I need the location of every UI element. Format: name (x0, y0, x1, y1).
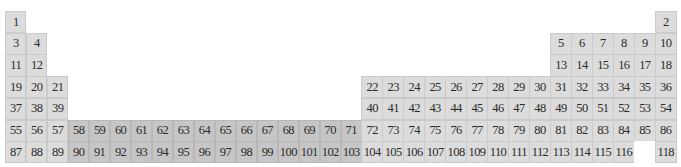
element-cell-52: 52 (613, 98, 634, 120)
element-cell-60: 60 (110, 120, 131, 142)
element-cell-23: 23 (382, 76, 403, 98)
element-cell-108: 108 (445, 141, 466, 163)
element-cell-107: 107 (424, 141, 445, 163)
element-cell-50: 50 (571, 98, 592, 120)
element-cell-103: 103 (341, 141, 362, 163)
element-cell-47: 47 (508, 98, 529, 120)
element-cell-27: 27 (466, 76, 487, 98)
element-cell-74: 74 (403, 120, 424, 142)
element-cell-6: 6 (571, 33, 592, 55)
element-cell-88: 88 (26, 141, 47, 163)
element-cell-92: 92 (110, 141, 131, 163)
element-cell-89: 89 (47, 141, 68, 163)
element-cell-40: 40 (361, 98, 382, 120)
element-cell-30: 30 (529, 76, 550, 98)
element-cell-54: 54 (655, 98, 676, 120)
element-cell-97: 97 (215, 141, 236, 163)
element-cell-66: 66 (236, 120, 257, 142)
element-cell-102: 102 (320, 141, 341, 163)
element-cell-17: 17 (634, 54, 655, 76)
element-cell-24: 24 (403, 76, 424, 98)
element-cell-105: 105 (382, 141, 403, 163)
element-cell-100: 100 (278, 141, 299, 163)
element-cell-45: 45 (466, 98, 487, 120)
element-cell-86: 86 (655, 120, 676, 142)
element-cell-48: 48 (529, 98, 550, 120)
element-cell-96: 96 (194, 141, 215, 163)
element-cell-104: 104 (361, 141, 382, 163)
element-cell-9: 9 (634, 33, 655, 55)
periodic-table: 1234567891011121314151617181920212223242… (5, 11, 676, 163)
element-cell-72: 72 (361, 120, 382, 142)
element-cell-57: 57 (47, 120, 68, 142)
element-cell-85: 85 (634, 120, 655, 142)
element-cell-12: 12 (26, 54, 47, 76)
element-cell-65: 65 (215, 120, 236, 142)
element-cell-118: 118 (655, 141, 676, 163)
element-cell-49: 49 (550, 98, 571, 120)
element-cell-77: 77 (466, 120, 487, 142)
element-cell-62: 62 (152, 120, 173, 142)
element-cell-35: 35 (634, 76, 655, 98)
element-cell-15: 15 (592, 54, 613, 76)
element-cell-19: 19 (5, 76, 26, 98)
empty-cell (634, 141, 655, 163)
element-cell-4: 4 (26, 33, 47, 55)
element-cell-95: 95 (173, 141, 194, 163)
element-cell-69: 69 (299, 120, 320, 142)
element-cell-36: 36 (655, 76, 676, 98)
element-cell-79: 79 (508, 120, 529, 142)
element-cell-56: 56 (26, 120, 47, 142)
element-cell-116: 116 (613, 141, 634, 163)
element-cell-81: 81 (550, 120, 571, 142)
element-cell-113: 113 (550, 141, 571, 163)
element-cell-21: 21 (47, 76, 68, 98)
element-cell-32: 32 (571, 76, 592, 98)
element-cell-94: 94 (152, 141, 173, 163)
element-cell-83: 83 (592, 120, 613, 142)
element-cell-8: 8 (613, 33, 634, 55)
element-cell-20: 20 (26, 76, 47, 98)
element-cell-90: 90 (68, 141, 89, 163)
element-cell-61: 61 (131, 120, 152, 142)
element-cell-84: 84 (613, 120, 634, 142)
element-cell-11: 11 (5, 54, 26, 76)
element-cell-34: 34 (613, 76, 634, 98)
element-cell-38: 38 (26, 98, 47, 120)
element-cell-13: 13 (550, 54, 571, 76)
element-cell-109: 109 (466, 141, 487, 163)
element-cell-2: 2 (655, 11, 676, 33)
element-cell-3: 3 (5, 33, 26, 55)
element-cell-26: 26 (445, 76, 466, 98)
element-cell-115: 115 (592, 141, 613, 163)
element-cell-82: 82 (571, 120, 592, 142)
element-cell-33: 33 (592, 76, 613, 98)
element-cell-29: 29 (508, 76, 529, 98)
element-cell-98: 98 (236, 141, 257, 163)
element-cell-91: 91 (89, 141, 110, 163)
element-cell-76: 76 (445, 120, 466, 142)
element-cell-22: 22 (361, 76, 382, 98)
element-cell-114: 114 (571, 141, 592, 163)
element-cell-53: 53 (634, 98, 655, 120)
element-cell-14: 14 (571, 54, 592, 76)
element-cell-43: 43 (424, 98, 445, 120)
element-cell-78: 78 (487, 120, 508, 142)
element-cell-73: 73 (382, 120, 403, 142)
element-cell-46: 46 (487, 98, 508, 120)
element-cell-64: 64 (194, 120, 215, 142)
element-cell-71: 71 (341, 120, 362, 142)
element-cell-41: 41 (382, 98, 403, 120)
element-cell-99: 99 (257, 141, 278, 163)
element-cell-93: 93 (131, 141, 152, 163)
element-cell-7: 7 (592, 33, 613, 55)
element-cell-16: 16 (613, 54, 634, 76)
element-cell-10: 10 (655, 33, 676, 55)
element-cell-110: 110 (487, 141, 508, 163)
element-cell-106: 106 (403, 141, 424, 163)
element-cell-80: 80 (529, 120, 550, 142)
element-cell-59: 59 (89, 120, 110, 142)
element-cell-18: 18 (655, 54, 676, 76)
element-cell-101: 101 (299, 141, 320, 163)
element-cell-1: 1 (5, 11, 26, 33)
